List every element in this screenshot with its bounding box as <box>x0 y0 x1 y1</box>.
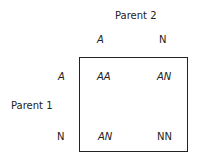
cell-aa: AA <box>97 72 111 82</box>
cell-an-bottom: AN <box>98 132 112 142</box>
cell-nn: NN <box>157 132 172 142</box>
parent1-label: Parent 1 <box>11 101 53 111</box>
parent2-label: Parent 2 <box>115 11 157 21</box>
parent1-allele-a: A <box>58 72 65 82</box>
parent2-allele-n: N <box>159 35 166 45</box>
parent2-allele-a: A <box>97 35 104 45</box>
cell-an-top: AN <box>157 72 171 82</box>
parent1-allele-n: N <box>57 132 64 142</box>
